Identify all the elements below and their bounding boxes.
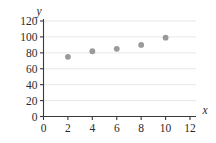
chart-canvas: 020406080100120 024681012 y x <box>0 0 216 143</box>
data-point <box>65 54 71 60</box>
x-tick-label-12: 12 <box>184 122 196 134</box>
y-tick-label-0: 0 <box>32 111 38 123</box>
data-point <box>114 46 120 52</box>
y-tick-label-100: 100 <box>20 31 38 43</box>
y-tick-label-80: 80 <box>26 47 38 59</box>
y-tick-label-120: 120 <box>20 15 38 27</box>
x-tick-label-10: 10 <box>160 122 172 134</box>
x-axis-label: x <box>201 104 208 116</box>
x-tick-label-4: 4 <box>89 122 95 134</box>
y-tick-label-20: 20 <box>26 95 38 107</box>
y-axis-label: y <box>35 5 42 18</box>
data-point <box>138 42 144 48</box>
y-tick-label-60: 60 <box>26 63 38 75</box>
y-tick-label-40: 40 <box>26 79 38 91</box>
scatter-chart: 020406080100120 024681012 y x <box>0 0 216 143</box>
data-point <box>163 35 169 41</box>
x-tick-label-6: 6 <box>114 122 120 134</box>
x-tick-label-2: 2 <box>65 122 71 134</box>
x-tick-label-8: 8 <box>138 122 144 134</box>
x-tick-label-0: 0 <box>41 122 47 134</box>
data-point <box>89 48 95 54</box>
